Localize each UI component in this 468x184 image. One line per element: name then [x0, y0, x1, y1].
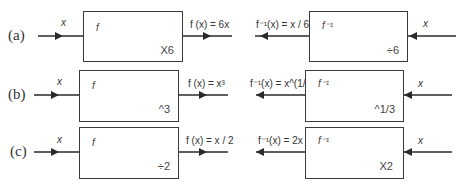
input-label: x: [61, 17, 66, 28]
inverse-output-label: f⁻¹(x) = x / 6: [256, 19, 309, 30]
inverse-output-label: f⁻¹(x) = 2x: [258, 135, 303, 146]
function-box-f: f ÷2: [79, 127, 179, 179]
function-box-f-inverse: f⁻¹ ÷6: [309, 11, 408, 62]
inverse-input-label: x: [418, 78, 423, 89]
row-label-c: (c): [10, 143, 27, 160]
function-name: f: [92, 80, 95, 91]
operation-label: ^3: [159, 103, 170, 115]
output-label: f (x) = x / 2: [186, 135, 234, 146]
output-label: f (x) = x³: [188, 78, 225, 89]
operation-label: ÷6: [387, 44, 399, 56]
row-label-a: (a): [8, 27, 25, 44]
function-name: f⁻¹: [322, 20, 333, 31]
operation-label: ÷2: [158, 160, 170, 172]
operation-label: X6: [161, 44, 174, 56]
function-box-f: f ^3: [79, 70, 179, 122]
function-box-f: f X6: [83, 11, 183, 62]
function-box-f-inverse: f⁻¹ X2: [305, 127, 404, 179]
function-name: f⁻¹: [318, 135, 329, 146]
inverse-input-label: x: [423, 18, 428, 29]
input-label: x: [57, 134, 62, 145]
inverse-input-label: x: [418, 135, 423, 146]
function-name: f: [92, 137, 95, 148]
function-name: f⁻¹: [318, 78, 329, 89]
input-label: x: [57, 76, 62, 87]
function-name: f: [96, 22, 99, 33]
operation-label: X2: [380, 160, 393, 172]
output-label: f (x) = 6x: [190, 19, 229, 30]
row-label-b: (b): [8, 86, 26, 103]
operation-label: ^1/3: [375, 103, 395, 115]
function-box-f-inverse: f⁻¹ ^1/3: [305, 70, 404, 122]
